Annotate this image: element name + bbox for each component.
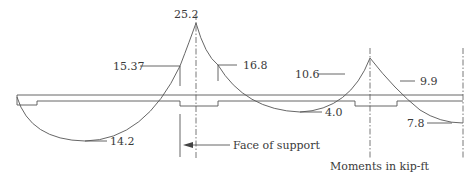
label-support2-right-face: 9.9 — [420, 75, 438, 88]
label-span2-positive: 4.0 — [325, 106, 343, 119]
label-span1-positive: 14.2 — [110, 135, 135, 148]
label-face-of-support: Face of support — [233, 139, 320, 152]
moment-curves — [17, 23, 463, 141]
face-of-support-lines — [180, 65, 218, 157]
label-support1-left-face: 15.37 — [113, 60, 145, 73]
label-support1-right-face: 16.8 — [243, 59, 268, 72]
label-support1-centerline: 25.2 — [174, 8, 199, 21]
moment-diagram: 14.2 25.2 15.37 16.8 4.0 10.6 9.9 7.8 Fa… — [0, 0, 475, 180]
label-span3-end: 7.8 — [407, 117, 425, 130]
beam — [17, 95, 463, 106]
caption-units: Moments in kip-ft — [330, 160, 430, 173]
label-support2-left-face: 10.6 — [295, 68, 320, 81]
